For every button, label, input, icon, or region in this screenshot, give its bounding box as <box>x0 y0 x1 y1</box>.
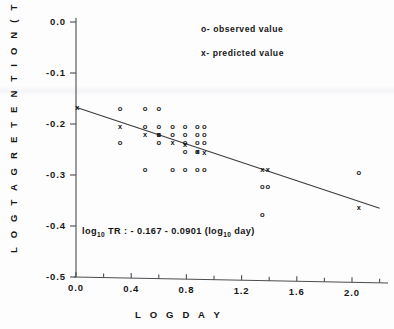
predicted-point-marker: x <box>266 165 271 174</box>
observed-point-marker: o <box>202 138 207 147</box>
equation-log-prefix: log <box>82 226 97 236</box>
x-tick-label: 1.2 <box>234 285 250 296</box>
observed-point-marker: o <box>143 165 148 174</box>
y-tick-label: -0.2 <box>46 118 66 129</box>
y-tick-label: -0.3 <box>46 169 66 180</box>
observed-point-marker: o <box>143 104 148 113</box>
observed-point-marker: o <box>202 165 207 174</box>
y-axis-title: L O G T A G R E T E N T I O N ( T R ) <box>8 0 19 253</box>
x-axis-line <box>74 277 388 283</box>
y-tick-label: -0.1 <box>46 67 66 78</box>
observed-point-marker: o <box>183 165 188 174</box>
y-tick-label: -0.5 <box>46 271 66 282</box>
observed-point-marker: o <box>118 104 123 113</box>
observed-point-marker: o <box>357 168 362 177</box>
observed-point-marker: o <box>118 138 123 147</box>
observed-point-marker: o <box>260 210 265 219</box>
figure-canvas: 0.0-0.1-0.2-0.3-0.4-0.5 0.00.40.81.21.62… <box>0 0 394 329</box>
y-tick-label: -0.4 <box>46 220 66 231</box>
x-tick-label: 0.0 <box>68 282 84 293</box>
predicted-point-marker: x <box>171 138 176 147</box>
observed-point-marker: o <box>195 165 200 174</box>
scatter-plot: 0.0-0.1-0.2-0.3-0.4-0.5 0.00.40.81.21.62… <box>0 0 394 329</box>
x-tick-label: 1.6 <box>289 286 305 297</box>
x-axis-ticks: 0.00.40.81.21.62.0 <box>68 272 380 298</box>
observed-point-marker: o <box>156 104 161 113</box>
legend-observed-label: o- observed value <box>201 24 283 34</box>
observed-point-marker: o <box>260 182 265 191</box>
equation-suffix: day) <box>231 226 254 236</box>
predicted-points-group: xxxxxxxxxxx <box>75 103 362 212</box>
observed-point-marker: o <box>156 138 161 147</box>
predicted-point-marker: x <box>75 103 80 112</box>
x-tick-label: 0.8 <box>178 284 194 295</box>
observed-point-marker: o <box>265 182 270 191</box>
observed-point-marker: o <box>170 165 175 174</box>
y-tick-label: 0.0 <box>50 16 66 27</box>
legend-predicted-label: x- predicted value <box>201 48 284 58</box>
y-axis-ticks: 0.0-0.1-0.2-0.3-0.4-0.5 <box>46 16 76 282</box>
observed-point-marker: o <box>195 138 200 147</box>
equation-subscript-2: 10 <box>223 231 231 238</box>
x-tick-label: 2.0 <box>344 287 360 298</box>
x-tick-label: 0.4 <box>123 283 139 294</box>
predicted-point-marker: x <box>357 203 362 212</box>
equation-middle: TR : - 0.167 - 0.0901 (log <box>105 226 223 236</box>
equation-subscript-1: 10 <box>97 231 105 238</box>
x-axis-title: L O G D A Y <box>135 309 223 320</box>
predicted-point-marker: x <box>202 148 207 157</box>
regression-equation: log10 TR : - 0.167 - 0.0901 (log10 day) <box>82 226 255 238</box>
